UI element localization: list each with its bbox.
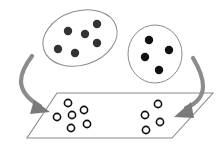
source-clusters	[36, 1, 182, 83]
ellipse-outline	[36, 1, 125, 76]
filled-dot	[155, 66, 163, 74]
hollow-dot	[141, 111, 148, 118]
left-cluster	[36, 1, 125, 76]
right-cluster	[128, 25, 182, 83]
hollow-dot	[156, 118, 163, 125]
arrow-shaft	[21, 56, 40, 106]
filled-dot	[93, 39, 101, 47]
filled-dot	[141, 53, 149, 61]
filled-dot	[165, 46, 173, 54]
circle-outline	[128, 25, 182, 83]
filled-dot	[145, 36, 153, 44]
filled-dot	[71, 49, 79, 57]
hollow-dot	[80, 106, 87, 113]
filled-dot	[93, 20, 101, 28]
clustering-diagram	[0, 0, 224, 150]
left-arrow	[21, 56, 50, 114]
hollow-dot	[64, 99, 71, 106]
hollow-dot	[142, 126, 149, 133]
hollow-dot	[83, 120, 90, 127]
filled-dot	[54, 45, 62, 53]
hollow-dot	[67, 124, 74, 131]
hollow-dot	[68, 111, 75, 118]
filled-dot	[81, 30, 89, 38]
hollow-dot	[53, 113, 60, 120]
filled-dot	[64, 27, 72, 35]
hollow-dot	[154, 100, 161, 107]
